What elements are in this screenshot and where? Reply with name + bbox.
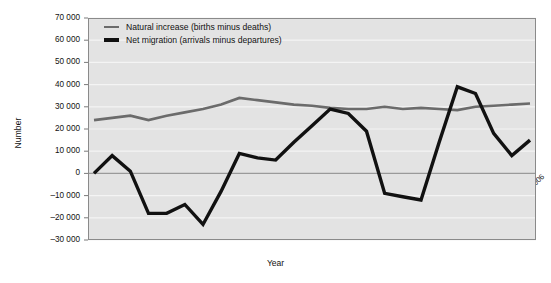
line-chart: Number Year 70 00060 00050 00040 00030 0… [0,0,551,283]
legend-item-net-migration: Net migration (arrivals minus departures… [104,35,282,45]
legend-label: Natural increase (births minus deaths) [126,22,271,32]
gray-line-swatch [104,26,119,29]
y-tick-marks [84,18,88,240]
black-line-swatch [104,38,119,41]
legend-item-natural-increase: Natural increase (births minus deaths) [104,22,271,32]
legend-label: Net migration (arrivals minus departures… [126,35,282,45]
